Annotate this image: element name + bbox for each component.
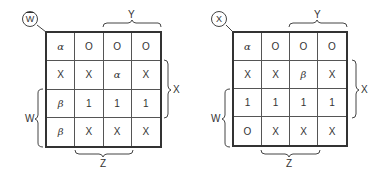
cell: α [104,61,132,89]
map-x-grid: α O O O X X β X 1 1 1 1 O X X X [232,31,348,147]
cell: O [104,33,132,61]
cell: O [318,33,346,61]
cell: 1 [132,90,160,118]
cell: X [262,117,290,145]
cell: α [234,33,262,61]
cell: 1 [234,89,262,117]
cell: O [132,33,160,61]
map-w-grid: α O O O X X α X β 1 1 1 β X X X [45,31,162,148]
cell: 1 [318,89,346,117]
cell: β [47,90,75,118]
cell: X [290,117,318,145]
cell: O [234,117,262,145]
cell: X [75,118,103,146]
cell: α [47,33,75,61]
map-x-variable-circle: X [211,11,227,27]
map-w-variable-circle: W [22,11,38,27]
karnaugh-map-x: X α O O O X X β X 1 1 1 1 O X X X Y X W … [190,0,380,183]
cell: X [47,61,75,89]
map-x-label-w: W [211,113,220,124]
cell: X [262,61,290,89]
cell: X [234,61,262,89]
cell: β [290,61,318,89]
cell: X [75,61,103,89]
cell: X [318,61,346,89]
map-x-label-z: Z [286,158,292,169]
cell: X [104,118,132,146]
cell: O [75,33,103,61]
cell: 1 [75,90,103,118]
map-w-variable-label: W [26,14,35,24]
cell: O [262,33,290,61]
karnaugh-map-w: W α O O O X X α X β 1 1 1 β X X X Y X W … [0,0,190,183]
map-x-label-x: X [361,84,368,95]
cell: O [290,33,318,61]
map-w-label-w: W [25,113,34,124]
cell: X [132,61,160,89]
map-w-label-x: X [173,84,180,95]
cell: 1 [290,89,318,117]
cell: 1 [104,90,132,118]
cell: X [132,118,160,146]
cell: X [318,117,346,145]
map-x-label-y: Y [314,9,321,20]
map-w-label-z: Z [100,158,106,169]
cell: 1 [262,89,290,117]
map-w-label-y: Y [128,9,135,20]
map-x-variable-label: X [216,14,222,24]
cell: β [47,118,75,146]
